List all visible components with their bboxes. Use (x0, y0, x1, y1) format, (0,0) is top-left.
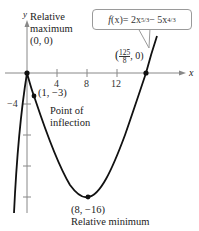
x-tick-8: 8 (84, 78, 89, 89)
x-axis-arrow-icon (179, 71, 186, 76)
inflection-label-1: Point of (50, 105, 84, 116)
y-tick-neg4: −4 (7, 98, 18, 109)
inflection-label-2: inflection (50, 117, 90, 128)
y-axis-label: y (23, 9, 27, 20)
function-callout: f(x) = 2x5/3 − 5x4/3 (92, 9, 192, 30)
inflection-point-label: (1, −3) (38, 87, 67, 98)
root-point (143, 70, 148, 75)
inflection-point (32, 94, 37, 99)
x-tick-12: 12 (111, 78, 121, 89)
rel-min-label: Relative minimum (71, 216, 149, 227)
rel-max-point (24, 70, 29, 75)
rel-min-point (86, 195, 91, 200)
rel-max-label-1: Relative (30, 11, 65, 22)
rel-max-label-2: maximum (30, 23, 73, 34)
x-axis-label: x (189, 67, 193, 78)
rel-max-point-label: (0, 0) (30, 35, 53, 46)
y-axis-arrow-icon (25, 20, 30, 27)
root-point-label: (1258, 0) (115, 49, 144, 64)
rel-min-point-label: (8, −16) (71, 204, 105, 215)
